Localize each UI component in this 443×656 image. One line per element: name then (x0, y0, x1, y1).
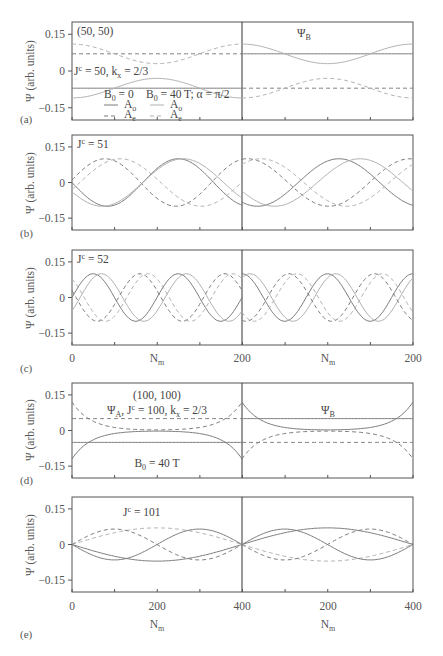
corner-label-d: (100, 100) (133, 389, 181, 402)
psi-a-label-d: ΨA, Jc = 100, kx = 2/3 (107, 403, 207, 419)
y-axis-title-b: Ψ (arb. units) (24, 152, 37, 214)
y-tick-label: 0 (59, 539, 65, 551)
panel-label-b: (b) (20, 227, 33, 240)
psi-b-label-d: ΨB (321, 404, 335, 419)
y-axis-title-c: Ψ (arb. units) (24, 267, 37, 329)
panel-label-e: (e) (20, 628, 33, 641)
x-tick-e-0: 0 (69, 600, 75, 612)
y-axis-title-d: Ψ (arb. units) (24, 399, 37, 461)
y-tick-label: −0.15 (38, 327, 65, 339)
jc-label-b: Jc = 51 (77, 137, 109, 150)
y-tick-label: 0 (59, 177, 65, 189)
b-left-ao-b0 (72, 159, 242, 207)
y-tick-label: −0.15 (38, 460, 65, 472)
panel-label-d: (d) (20, 474, 33, 487)
panel-a-annotations: (50, 50) Jc = 50, kx = 2/3 ΨB B0 = 0 B0 … (74, 25, 311, 123)
x-tick-e-400a: 400 (233, 600, 251, 612)
panel-d-annotations: (100, 100) ΨA, Jc = 100, kx = 2/3 ΨB B0 … (107, 389, 335, 472)
legend: B0 = 0 B0 = 40 T; α = π/2 Ao Ae Ao Ae (104, 88, 230, 123)
d-right-ae-edge (242, 431, 413, 459)
figure: 0.150−0.150.150−0.150.150−0.150.150−0.15… (0, 0, 443, 656)
panel-label-a: (a) (20, 113, 33, 126)
x-tick-c-0: 0 (69, 352, 75, 364)
x-tick-c-200a: 200 (233, 352, 251, 364)
d-left-ao-edge (72, 431, 242, 459)
b-right-ae-b0 (242, 159, 413, 206)
y-tick-label: 0.15 (45, 141, 65, 153)
x-axis-e: 0 200 400 200 400 Nm Nm (69, 600, 422, 633)
panel-d: 0.150−0.15 (38, 383, 413, 478)
jc-label-c: Jc = 52 (77, 252, 109, 265)
panel-label-c: (c) (20, 362, 33, 375)
e-left-1 (72, 545, 242, 562)
psi-b-label-a: ΨB (297, 27, 311, 42)
y-axis-title-a: Ψ (arb. units) (24, 40, 37, 102)
e-right-1 (242, 528, 413, 545)
y-tick-label: −0.15 (38, 574, 65, 586)
y-tick-label: 0.15 (45, 389, 65, 401)
corner-label-a: (50, 50) (77, 25, 114, 38)
x-tick-e-200b: 200 (319, 600, 337, 612)
x-tick-e-400b: 400 (404, 600, 422, 612)
y-tick-label: 0 (59, 292, 65, 304)
y-tick-label: 0 (59, 425, 65, 437)
y-axis-title-e: Ψ (arb. units) (24, 514, 37, 576)
e-right-4 (242, 529, 413, 560)
e-left-2 (72, 528, 242, 545)
c-left-ao-b0 (72, 274, 242, 322)
y-tick-label: −0.15 (38, 212, 65, 224)
b-left-ae-b0 (72, 159, 242, 206)
x-axis-c: 0 200 200 Nm Nm (69, 352, 422, 367)
x-axis-title-c-right: Nm (321, 352, 336, 367)
x-axis-title-e-right: Nm (321, 618, 336, 633)
b-right-ao-b40 (242, 159, 413, 206)
y-tick-label: 0.15 (45, 503, 65, 515)
panel-e: 0.150−0.15 (38, 497, 413, 592)
b-left-ao-b40 (72, 159, 242, 206)
jc-label-a: Jc = 50, kx = 2/3 (74, 64, 148, 80)
b0-label-d: B0 = 40 T (134, 457, 179, 472)
c-right-ae-b0 (242, 274, 413, 321)
y-tick-label: 0.15 (45, 28, 65, 40)
y-tick-label: −0.15 (38, 102, 65, 114)
x-axis-title-c-left: Nm (150, 352, 165, 367)
x-tick-e-200a: 200 (148, 600, 166, 612)
b-right-ae-b40 (242, 159, 413, 206)
y-tick-label: 0 (59, 65, 65, 77)
x-axis-title-e-left: Nm (150, 618, 165, 633)
e-right-2 (242, 545, 413, 562)
b-left-ae-b40 (72, 159, 242, 206)
b-right-ao-b0 (242, 159, 413, 206)
jc-label-e: Jc = 101 (123, 505, 161, 518)
e-left-4 (72, 529, 242, 560)
legend-b0-40-title: B0 = 40 T; α = π/2 (146, 88, 230, 103)
x-tick-c-200b: 200 (404, 352, 422, 364)
y-tick-label: 0.15 (45, 256, 65, 268)
